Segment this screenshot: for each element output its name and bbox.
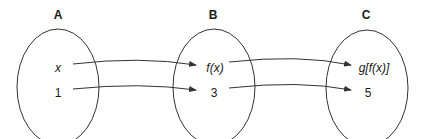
set-b-ellipse: [173, 29, 255, 139]
set-a-label: A: [54, 8, 63, 22]
set-c-element-gfx: g[f(x)]: [359, 61, 390, 75]
set-b-element-fx: f(x): [206, 61, 223, 75]
set-b-label: B: [209, 8, 218, 22]
set-c-ellipse: [326, 30, 408, 139]
set-b: B f(x) 3: [173, 8, 255, 139]
set-c-element-5: 5: [365, 86, 372, 100]
set-a-ellipse: [17, 29, 99, 139]
set-a-element-x: x: [54, 61, 62, 75]
set-c: C g[f(x)] 5: [326, 8, 408, 139]
set-b-element-3: 3: [211, 86, 218, 100]
set-c-label: C: [362, 8, 371, 22]
arrow-1-to-3: [73, 86, 196, 90]
arrow-fx-to-gfx: [229, 59, 351, 65]
set-a-element-1: 1: [55, 86, 62, 100]
arrow-3-to-5: [229, 84, 351, 90]
function-composition-diagram: A x 1 B f(x) 3 C g[f(x)] 5: [0, 0, 424, 139]
set-a: A x 1: [17, 8, 99, 139]
